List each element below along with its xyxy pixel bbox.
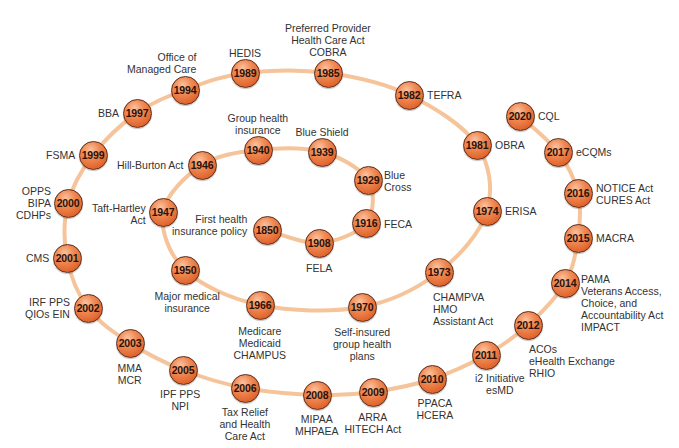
event-label-1946: Hill-Burton Act: [117, 159, 184, 171]
healthcare-timeline-spiral: 1850First health insurance policy1908FEL…: [0, 0, 679, 448]
year-label: 2009: [362, 386, 385, 398]
year-label: 2002: [77, 302, 100, 314]
year-node-1850: 1850: [253, 216, 282, 245]
year-label: 1950: [174, 264, 197, 276]
year-node-1950: 1950: [171, 256, 200, 285]
year-node-2003: 2003: [116, 329, 145, 358]
event-label-2003: MMA MCR: [118, 362, 143, 386]
event-label-2014: PAMA Veterans Access, Choice, and Accoun…: [581, 273, 663, 333]
event-label-1981: OBRA: [495, 139, 525, 151]
event-label-1973: CHAMPVA HMO Assistant Act: [433, 291, 493, 327]
event-label-2006: Tax Relief and Health Care Act: [220, 406, 271, 442]
year-node-2017: 2017: [544, 138, 573, 167]
year-node-2005: 2005: [169, 356, 198, 385]
year-node-1946: 1946: [188, 151, 217, 180]
year-node-1966: 1966: [246, 291, 275, 320]
year-label: 1985: [317, 67, 340, 79]
year-label: 2016: [567, 187, 590, 199]
year-node-1985: 1985: [314, 59, 343, 88]
year-label: 1947: [152, 206, 175, 218]
event-label-2005: IPF PPS NPI: [160, 388, 200, 412]
year-label: 2001: [56, 252, 79, 264]
year-node-2006: 2006: [231, 374, 260, 403]
year-label: 1999: [82, 149, 105, 161]
year-label: 1982: [398, 89, 421, 101]
year-node-2015: 2015: [564, 224, 593, 253]
year-node-1940: 1940: [244, 136, 273, 165]
year-node-1999: 1999: [79, 141, 108, 170]
year-node-2002: 2002: [74, 294, 103, 323]
year-label: 2015: [567, 232, 590, 244]
event-label-1966: Medicare Medicaid CHAMPUS: [234, 325, 287, 361]
year-node-1974: 1974: [473, 197, 502, 226]
year-label: 1974: [476, 205, 499, 217]
event-label-1916: FECA: [384, 218, 412, 230]
year-node-1947: 1947: [149, 198, 178, 227]
year-node-1929: 1929: [354, 166, 383, 195]
year-label: 1939: [311, 146, 334, 158]
year-label: 1946: [191, 159, 214, 171]
event-label-2009: ARRA HITECH Act: [345, 411, 402, 435]
event-label-1974: ERISA: [505, 205, 537, 217]
event-label-1999: FSMA: [46, 149, 75, 161]
year-label: 2017: [547, 146, 570, 158]
year-node-2016: 2016: [564, 179, 593, 208]
year-label: 2011: [475, 349, 497, 361]
year-label: 1981: [466, 139, 489, 151]
event-label-1997: BBA: [98, 107, 119, 119]
year-node-1973: 1973: [425, 258, 454, 287]
year-node-2012: 2012: [514, 311, 543, 340]
event-label-2016: NOTICE Act CURES Act: [596, 182, 653, 206]
year-label: 1940: [247, 144, 270, 156]
year-node-2008: 2008: [303, 381, 332, 410]
event-label-1985: Preferred Provider Health Care Act COBRA: [285, 22, 371, 58]
event-label-1908: FELA: [306, 262, 332, 274]
year-node-2011: 2011: [472, 341, 501, 370]
year-label: 2010: [421, 373, 444, 385]
event-label-2012: ACOs eHealth Exchange RHIO: [529, 343, 615, 379]
event-label-1947: Taft-Hartley Act: [92, 202, 146, 226]
year-label: 2008: [306, 389, 329, 401]
year-label: 1994: [174, 84, 197, 96]
year-node-1908: 1908: [305, 229, 334, 258]
year-node-2014: 2014: [551, 269, 580, 298]
event-label-2011: i2 Initiative esMD: [475, 372, 525, 396]
year-node-1982: 1982: [395, 81, 424, 110]
year-node-1997: 1997: [123, 99, 152, 128]
year-label: 1989: [234, 67, 257, 79]
year-label: 2003: [119, 337, 142, 349]
event-label-2002: IRF PPS QIOs EIN: [25, 296, 70, 320]
year-label: 1929: [357, 174, 380, 186]
event-label-1850: First health insurance policy: [172, 213, 247, 237]
year-label: 2005: [172, 364, 195, 376]
year-node-2009: 2009: [359, 378, 388, 407]
event-label-1970: Self-insured group health plans: [333, 326, 391, 362]
event-label-1940: Group health insurance: [228, 112, 289, 136]
year-label: 1966: [249, 299, 272, 311]
year-label: 1997: [126, 107, 149, 119]
year-label: 1850: [256, 224, 279, 236]
year-node-1989: 1989: [231, 59, 260, 88]
event-label-1929: Blue Cross: [384, 169, 411, 193]
event-label-2015: MACRA: [596, 232, 634, 244]
year-label: 2006: [234, 382, 257, 394]
year-label: 1973: [428, 266, 451, 278]
event-label-1950: Major medical insurance: [155, 290, 220, 314]
event-label-2001: CMS: [26, 252, 49, 264]
year-node-1970: 1970: [348, 293, 377, 322]
event-label-1939: Blue Shield: [296, 126, 349, 138]
year-node-1994: 1994: [171, 76, 200, 105]
year-label: 2014: [554, 277, 577, 289]
event-label-2020: CQL: [538, 110, 560, 122]
year-node-2001: 2001: [53, 244, 82, 273]
year-node-2010: 2010: [418, 365, 447, 394]
event-label-1994: Office of Managed Care: [127, 51, 196, 75]
year-node-2020: 2020: [506, 102, 535, 131]
year-label: 1908: [308, 237, 331, 249]
event-label-2000: OPPS BIPA CDHPs: [16, 185, 51, 221]
year-node-1939: 1939: [308, 138, 337, 167]
event-label-2017: eCQMs: [576, 146, 612, 158]
year-node-2000: 2000: [54, 189, 83, 218]
year-label: 2000: [57, 197, 80, 209]
year-node-1981: 1981: [463, 131, 492, 160]
